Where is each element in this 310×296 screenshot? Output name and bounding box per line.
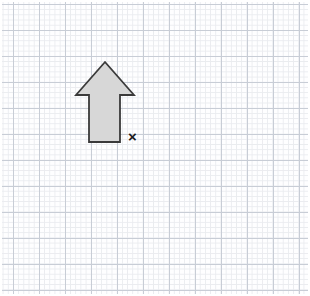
up-arrow-shape[interactable] (76, 62, 134, 142)
point-marker-x: × (128, 129, 137, 144)
shape-layer (0, 0, 310, 296)
worksheet-canvas: × (0, 0, 310, 296)
